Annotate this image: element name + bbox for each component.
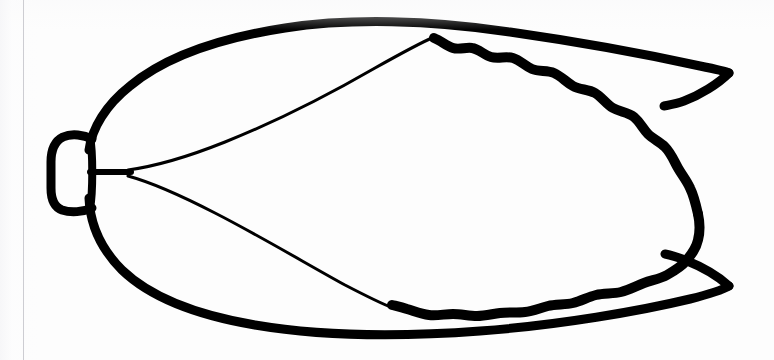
wing-drawing [0, 0, 774, 360]
membrane-upper-scalloped-edge [434, 38, 698, 214]
figure-canvas [0, 0, 774, 360]
vein-lower [128, 176, 393, 308]
leading-edge [89, 22, 729, 150]
membrane-lower-scalloped-edge [392, 214, 700, 316]
upper-tip-return [664, 73, 729, 106]
